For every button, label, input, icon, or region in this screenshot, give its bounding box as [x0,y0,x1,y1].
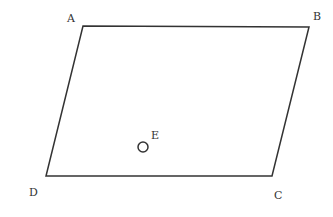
vertex-label-a: A [66,12,76,25]
point-e-circle [138,142,148,152]
point-label-e: E [151,129,159,142]
parallelogram-abcd [46,26,309,176]
vertex-label-c: C [274,189,282,202]
vertex-label-d: D [29,186,38,199]
vertex-label-b: B [313,10,321,23]
diagram-canvas: A B C D E [0,0,333,217]
